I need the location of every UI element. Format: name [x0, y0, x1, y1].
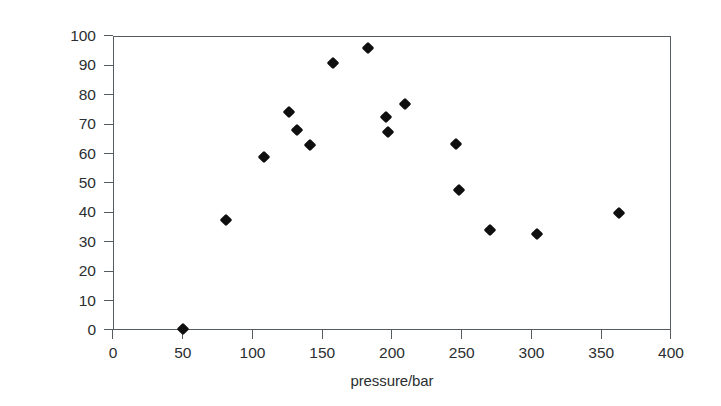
x-tick-mark	[531, 330, 532, 339]
y-tick-label-wrap: 50	[46, 175, 96, 191]
y-tick-label: 10	[50, 293, 96, 309]
scatter-chart-figure: 0102030405060708090100 05010015020025030…	[0, 0, 721, 406]
x-tick-mark	[182, 330, 183, 339]
y-tick-mark	[104, 124, 113, 125]
y-tick-mark	[104, 182, 113, 183]
y-tick-mark	[104, 271, 113, 272]
y-tick-label: 60	[50, 146, 96, 162]
y-tick-label: 20	[50, 263, 96, 279]
y-tick-label: 80	[50, 87, 96, 103]
x-tick-label-wrap: 150	[292, 344, 352, 364]
y-tick-mark	[104, 300, 113, 301]
x-tick-mark	[461, 330, 462, 339]
x-tick-mark	[112, 330, 113, 339]
y-tick-label-wrap: 70	[46, 116, 96, 132]
y-tick-mark	[104, 241, 113, 242]
x-tick-mark	[252, 330, 253, 339]
y-tick-label: 0	[50, 322, 96, 338]
y-tick-label: 40	[50, 204, 96, 220]
x-tick-label: 0	[83, 344, 143, 361]
y-tick-label: 70	[50, 116, 96, 132]
y-tick-label-wrap: 10	[46, 293, 96, 309]
x-tick-mark	[670, 330, 671, 339]
y-tick-mark	[104, 153, 113, 154]
x-tick-label-wrap: 0	[83, 344, 143, 364]
x-tick-label-wrap: 50	[153, 344, 213, 364]
x-tick-label: 50	[153, 344, 213, 361]
x-tick-label-wrap: 300	[502, 344, 562, 364]
x-axis-title: pressure/bar	[113, 372, 671, 389]
y-tick-label-wrap: 60	[46, 146, 96, 162]
x-tick-mark	[391, 330, 392, 339]
y-axis-title: diasteromeric excess/%	[14, 0, 38, 60]
x-tick-label: 300	[502, 344, 562, 361]
x-tick-label: 150	[292, 344, 352, 361]
y-tick-label-wrap: 80	[46, 87, 96, 103]
y-tick-label-wrap: 0	[46, 322, 96, 338]
x-tick-label: 400	[641, 344, 701, 361]
y-tick-label: 100	[50, 28, 96, 44]
x-tick-label: 100	[223, 344, 283, 361]
y-tick-label-wrap: 90	[46, 57, 96, 73]
x-tick-label: 250	[432, 344, 492, 361]
plot-frame	[113, 36, 671, 330]
y-tick-mark	[104, 94, 113, 95]
x-tick-label-wrap: 250	[432, 344, 492, 364]
y-tick-label-wrap: 40	[46, 204, 96, 220]
y-tick-label: 30	[50, 234, 96, 250]
x-tick-label-wrap: 200	[362, 344, 422, 364]
x-tick-label: 350	[571, 344, 631, 361]
y-tick-mark	[104, 65, 113, 66]
x-tick-mark	[322, 330, 323, 339]
y-tick-mark	[104, 35, 113, 36]
y-tick-label: 90	[50, 57, 96, 73]
y-tick-label-wrap: 30	[46, 234, 96, 250]
y-tick-label-wrap: 20	[46, 263, 96, 279]
x-tick-label: 200	[362, 344, 422, 361]
x-tick-label-wrap: 100	[223, 344, 283, 364]
y-tick-mark	[104, 212, 113, 213]
x-tick-mark	[601, 330, 602, 339]
x-tick-label-wrap: 400	[641, 344, 701, 364]
y-tick-label: 50	[50, 175, 96, 191]
y-tick-label-wrap: 100	[46, 28, 96, 44]
x-tick-label-wrap: 350	[571, 344, 631, 364]
